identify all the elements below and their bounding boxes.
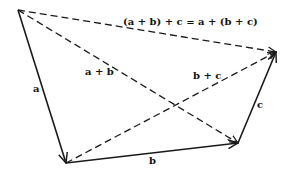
vector-b-plus-c-label: b + c [193, 71, 221, 81]
vector-addition-diagram: (a + b) + c = a + (b + c) a a + b b + c … [0, 0, 292, 177]
vector-a-line [18, 10, 66, 163]
equation-label: (a + b) + c = a + (b + c) [123, 17, 258, 27]
vector-b-label: b [149, 156, 156, 166]
vector-a-label: a [33, 84, 39, 94]
vector-a-plus-b-label: a + b [85, 67, 114, 77]
vector-c-label: c [257, 100, 263, 110]
vector-c-line [238, 52, 276, 143]
